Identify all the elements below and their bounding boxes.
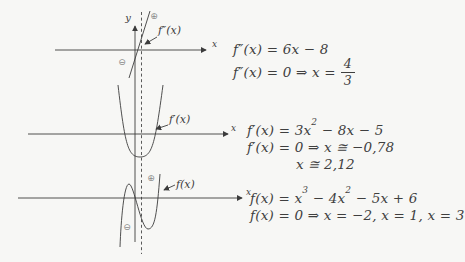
x-axis-label-top: x	[212, 39, 217, 49]
function-exponent-squared: 2	[345, 185, 351, 195]
second-derivative-root-equation: f″(x) = 0 ⇒ x = 4 3	[233, 57, 355, 88]
plus-circle-icon: ⊕	[150, 11, 158, 21]
first-derivative-root-equation: f′(x) = 0 ⇒ x ≅ −0,78	[247, 139, 394, 155]
second-derivative-pointer-arrow	[145, 37, 157, 44]
x-axis-label-middle: x	[231, 123, 236, 133]
first-derivative-exponent: 2	[311, 117, 317, 127]
first-derivative-equation-post: − 8x − 5	[317, 122, 383, 138]
function-equation-post: − 5x + 6	[351, 190, 417, 206]
y-axis-label: y	[124, 12, 131, 23]
fraction-numerator: 4	[341, 57, 355, 73]
first-derivative-pointer-arrow	[156, 125, 168, 129]
function-equation: f(x) = x3 − 4x2 − 5x + 6	[250, 189, 418, 206]
first-derivative-equation-pre: f′(x) = 3x	[247, 122, 311, 138]
first-derivative-curve-label: f′(x)	[168, 113, 190, 126]
function-pointer-arrow	[164, 185, 175, 190]
second-derivative-curve-label: f″(x)	[157, 24, 181, 37]
second-derivative-line	[129, 11, 150, 78]
plus-circle-icon: ⊕	[147, 173, 155, 183]
function-equation-pre: f(x) = x	[250, 190, 302, 206]
fraction-four-thirds: 4 3	[341, 57, 355, 88]
first-derivative-second-root: x ≅ 2,12	[296, 156, 355, 172]
first-derivative-parabola	[118, 85, 163, 157]
second-derivative-root-text: f″(x) = 0 ⇒ x =	[233, 64, 336, 80]
function-exponent-cubed: 3	[302, 185, 308, 195]
function-curve-label: f(x)	[175, 178, 195, 191]
fraction-denominator: 3	[341, 73, 355, 88]
function-roots-equation: f(x) = 0 ⇒ x = −2, x = 1, x = 3	[250, 207, 465, 223]
function-equation-mid: − 4x	[308, 190, 345, 206]
minus-circle-icon: ⊖	[118, 57, 126, 67]
minus-circle-icon: ⊖	[123, 222, 131, 232]
function-cubic-curve	[120, 174, 160, 247]
first-derivative-equation: f′(x) = 3x2 − 8x − 5	[247, 121, 384, 138]
second-derivative-equation: f″(x) = 6x − 8	[233, 41, 329, 57]
